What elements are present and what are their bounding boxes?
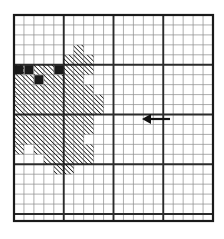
hatched-cell xyxy=(44,75,54,85)
hatched-cell xyxy=(34,134,44,144)
hatched-cell xyxy=(74,45,84,55)
hatched-cell xyxy=(24,134,34,144)
hatched-cell xyxy=(34,124,44,134)
hatched-cell xyxy=(14,134,24,144)
hatched-cell xyxy=(84,144,94,154)
hatched-cell xyxy=(64,55,74,65)
hatched-cell xyxy=(74,75,84,85)
solid-cell xyxy=(34,75,43,84)
figure-canvas xyxy=(0,0,224,239)
hatched-cell xyxy=(24,95,34,105)
hatched-cell xyxy=(54,124,64,134)
hatched-cell xyxy=(64,85,74,95)
hatched-cell xyxy=(54,154,64,164)
hatched-cell xyxy=(64,75,74,85)
hatched-cell xyxy=(84,115,94,125)
hatched-cell xyxy=(24,124,34,134)
hatched-cell xyxy=(54,95,64,105)
hatched-cell xyxy=(84,55,94,65)
hatched-cell xyxy=(84,65,94,75)
hatched-cell xyxy=(64,164,74,174)
hatched-cell xyxy=(14,115,24,125)
hatched-cell xyxy=(74,144,84,154)
hatched-cell xyxy=(64,154,74,164)
hatched-cell xyxy=(84,85,94,95)
hatched-cell xyxy=(94,105,104,115)
hatched-cell xyxy=(64,95,74,105)
hatched-cell xyxy=(14,85,24,95)
hatched-cell xyxy=(64,134,74,144)
hatched-cell xyxy=(44,124,54,134)
hatched-cell xyxy=(44,144,54,154)
hatched-cell xyxy=(34,95,44,105)
hatched-cell xyxy=(34,105,44,115)
hatched-cell xyxy=(24,75,34,85)
hatched-cell xyxy=(54,75,64,85)
hatched-cell xyxy=(54,144,64,154)
hatched-cell xyxy=(74,134,84,144)
hatched-cell xyxy=(54,85,64,95)
hatched-cell xyxy=(44,105,54,115)
hatched-cell xyxy=(44,115,54,125)
hatched-cell xyxy=(54,164,64,174)
hatched-cell xyxy=(34,115,44,125)
hatched-cell xyxy=(54,134,64,144)
hatched-cell xyxy=(74,124,84,134)
hatched-cell xyxy=(94,95,104,105)
graph-paper-figure xyxy=(0,0,224,239)
hatched-cell xyxy=(64,144,74,154)
hatched-cell xyxy=(44,65,54,75)
hatched-cell xyxy=(44,134,54,144)
hatched-cell xyxy=(74,105,84,115)
solid-cell xyxy=(15,65,24,74)
hatched-cell xyxy=(84,95,94,105)
hatched-cell xyxy=(24,85,34,95)
hatched-cell xyxy=(74,85,84,95)
hatched-cell xyxy=(54,115,64,125)
hatched-cell xyxy=(74,95,84,105)
hatched-cell xyxy=(64,65,74,75)
solid-cell xyxy=(24,65,33,74)
hatched-cell xyxy=(14,144,24,154)
hatched-cell xyxy=(84,124,94,134)
hatched-cell xyxy=(24,105,34,115)
hatched-cell xyxy=(14,75,24,85)
hatched-cell xyxy=(74,154,84,164)
hatched-cell xyxy=(34,85,44,95)
hatched-cell xyxy=(84,105,94,115)
hatched-cell xyxy=(64,115,74,125)
hatched-cell xyxy=(44,95,54,105)
hatched-cell xyxy=(14,95,24,105)
hatched-cell xyxy=(34,144,44,154)
hatched-cell xyxy=(44,85,54,95)
hatched-cell xyxy=(24,115,34,125)
hatched-cell xyxy=(74,55,84,65)
hatched-cell xyxy=(84,154,94,164)
hatched-cell xyxy=(64,105,74,115)
hatched-cell xyxy=(64,124,74,134)
hatched-cell xyxy=(34,65,44,75)
hatched-cell xyxy=(44,154,54,164)
solid-cell xyxy=(54,65,63,74)
hatched-cell xyxy=(14,105,24,115)
hatched-cell xyxy=(74,115,84,125)
hatched-cell xyxy=(74,65,84,75)
hatched-cell xyxy=(14,124,24,134)
hatched-cell xyxy=(54,105,64,115)
